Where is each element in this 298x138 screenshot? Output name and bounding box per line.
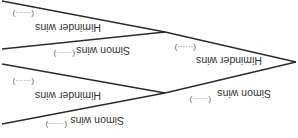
svg-text:(……): (……) [53, 50, 75, 59]
probability-tree: Himinder wins (……) Simon wins (……) Himin… [0, 0, 298, 138]
svg-text:Himinder wins: Himinder wins [35, 22, 101, 34]
svg-text:Himinder wins: Himinder wins [196, 55, 262, 67]
label-root-himinder: Himinder wins (……) [174, 44, 262, 67]
label-s-simon: Simon wins (……) [45, 115, 124, 130]
label-h-himinder: Himinder wins (……) [12, 10, 101, 34]
svg-text:(……): (……) [189, 96, 211, 105]
label-h-simon: Simon wins (……) [53, 45, 130, 59]
label-root-simon: Simon wins (……) [189, 88, 271, 105]
svg-text:(……): (……) [45, 121, 67, 130]
label-s-himinder: Himinder wins (……) [12, 78, 101, 102]
svg-text:Simon wins: Simon wins [217, 88, 271, 100]
svg-text:Simon wins: Simon wins [70, 115, 124, 127]
svg-text:(……): (……) [12, 78, 34, 87]
svg-text:Himinder wins: Himinder wins [35, 90, 101, 102]
svg-text:(……): (……) [174, 44, 196, 53]
svg-text:(……): (……) [12, 10, 34, 19]
svg-text:Simon wins: Simon wins [76, 45, 130, 57]
